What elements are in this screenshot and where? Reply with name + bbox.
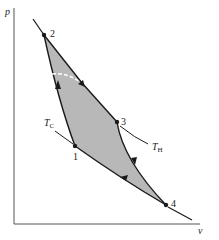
- y-axis-label: p: [4, 6, 10, 17]
- point-2: [42, 33, 46, 37]
- cold-isotherm-label: TC: [44, 117, 55, 130]
- point-2-label: 2: [50, 28, 55, 39]
- cycle-area: [44, 35, 166, 205]
- x-axis-label: v: [198, 225, 203, 236]
- hot-isotherm-label: TH: [152, 141, 163, 154]
- pv-diagram: p v 1 2 3 4 TC TH: [0, 0, 219, 240]
- point-4: [164, 203, 168, 207]
- point-1: [73, 144, 77, 148]
- point-3: [115, 120, 119, 124]
- point-1-label: 1: [73, 151, 78, 162]
- hot-isotherm-extension-upper: [33, 19, 44, 35]
- point-3-label: 3: [121, 116, 126, 127]
- point-4-label: 4: [171, 198, 176, 209]
- hot-isotherm-extension: [120, 126, 148, 144]
